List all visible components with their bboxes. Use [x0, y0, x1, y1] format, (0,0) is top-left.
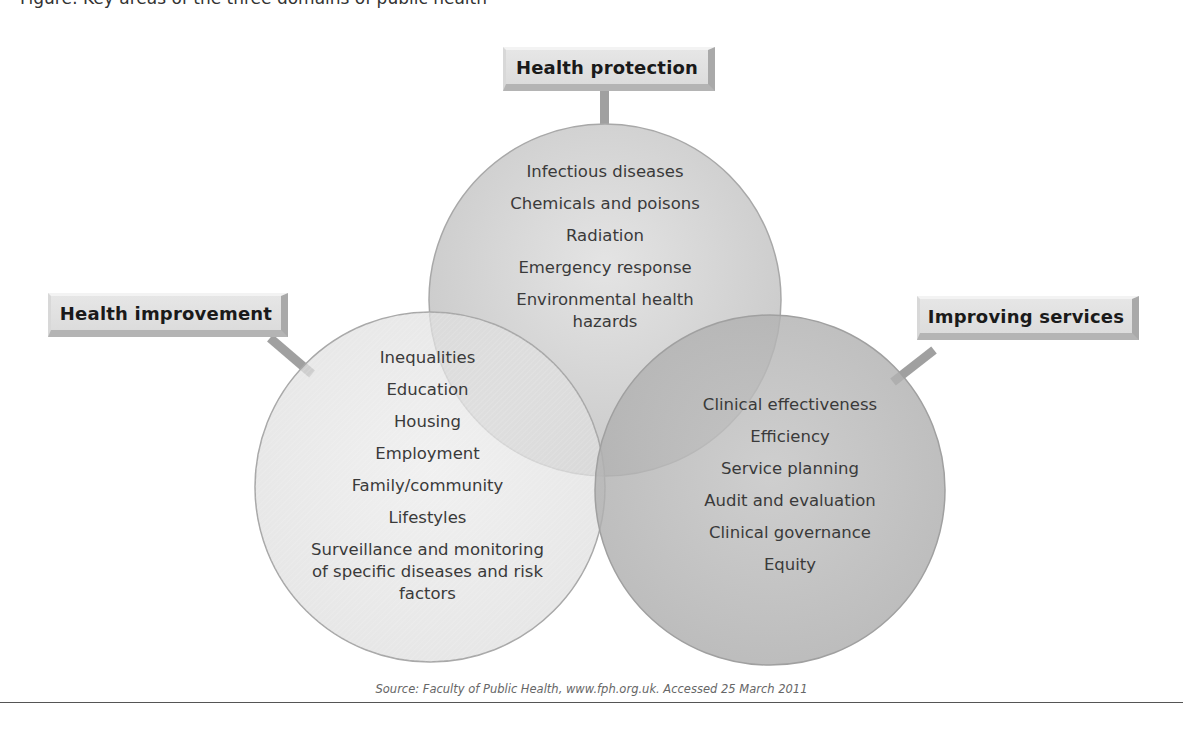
divider-line [0, 702, 1183, 703]
list-improving-services: Clinical effectiveness Efficiency Servic… [660, 389, 920, 581]
source-note: Source: Faculty of Public Health, www.fp… [0, 682, 1183, 696]
list-item: Chemicals and poisons [495, 188, 715, 220]
list-health-improvement: Inequalities Education Housing Employmen… [300, 342, 555, 605]
list-item: Infectious diseases [495, 156, 715, 188]
label-health-improvement-text: Health improvement [60, 303, 272, 324]
list-item: Radiation [495, 220, 715, 252]
list-item: Clinical effectiveness [660, 389, 920, 421]
list-item: Inequalities [300, 342, 555, 374]
list-item: Employment [300, 438, 555, 470]
label-improving-services: Improving services [917, 296, 1139, 340]
list-item: Emergency response [495, 252, 715, 284]
list-item: Clinical governance [660, 517, 920, 549]
list-item: Surveillance and monitoring of specific … [305, 534, 550, 605]
list-item: Family/community [300, 470, 555, 502]
list-item: Audit and evaluation [660, 485, 920, 517]
list-item: Housing [300, 406, 555, 438]
label-improving-services-text: Improving services [928, 306, 1124, 327]
list-item: Service planning [660, 453, 920, 485]
venn-diagram [0, 0, 1183, 732]
list-item: Equity [660, 549, 920, 581]
list-item: Education [300, 374, 555, 406]
list-item: Environmental health hazards [515, 284, 695, 333]
label-health-protection: Health protection [503, 47, 715, 91]
list-health-protection: Infectious diseases Chemicals and poison… [495, 156, 715, 333]
connector-health-protection [600, 90, 609, 126]
list-item: Efficiency [660, 421, 920, 453]
list-item: Lifestyles [300, 502, 555, 534]
label-health-protection-text: Health protection [516, 57, 698, 78]
label-health-improvement: Health improvement [48, 293, 288, 337]
